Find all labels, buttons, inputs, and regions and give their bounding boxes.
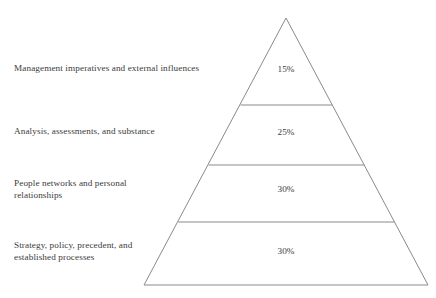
tier-label-1: Management imperatives and external infl… (14, 62, 246, 74)
pyramid-diagram: Management imperatives and external infl… (0, 0, 436, 298)
tier-label-3: People networks and personal relationshi… (14, 177, 174, 202)
tier-value-1: 15% (256, 64, 316, 75)
pyramid-outline (144, 18, 428, 285)
tier-value-2: 25% (256, 127, 316, 138)
tier-label-4: Strategy, policy, precedent, and establi… (14, 239, 174, 264)
tier-label-2: Analysis, assessments, and substance (14, 125, 246, 137)
tier-value-4: 30% (256, 246, 316, 257)
tier-value-3: 30% (256, 184, 316, 195)
